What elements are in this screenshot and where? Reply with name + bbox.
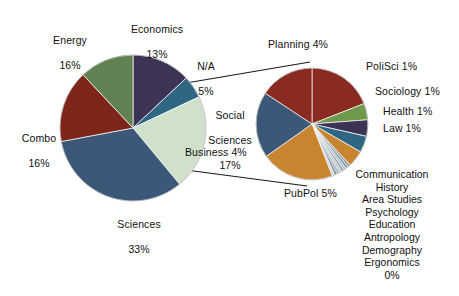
label-polisci: PoliSci 1% [366, 60, 417, 73]
label-planning: Planning 4% [268, 38, 328, 51]
label-na-text: N/A [197, 60, 215, 72]
label-social-sciences: Social Sciences 17% [190, 96, 258, 184]
label-economics-value: 13% [146, 48, 167, 60]
label-sciences-text: Sciences [117, 218, 160, 230]
pie-chart-figure: Economics 13% Energy 16% Combo 16% Scien… [0, 0, 459, 296]
label-combo-value: 16% [28, 157, 49, 169]
label-social-line1: Social [215, 109, 244, 121]
label-combo-text: Combo [22, 132, 56, 144]
label-energy-text: Energy [53, 34, 87, 46]
label-sciences-value: 33% [128, 243, 149, 255]
label-pubpol: PubPol 5% [284, 187, 337, 200]
label-energy: Energy 16% [27, 21, 101, 84]
label-social-line2: Sciences [208, 134, 251, 146]
label-energy-value: 16% [59, 59, 80, 71]
label-zero-percent-group: Communication History Area Studies Psych… [337, 168, 447, 281]
label-social-value: 17% [219, 159, 240, 171]
label-law: Law 1% [383, 122, 421, 135]
label-combo: Combo 16% [2, 119, 64, 182]
label-sciences: Sciences 33% [92, 205, 174, 268]
label-sociology: Sociology 1% [375, 85, 440, 98]
label-economics-text: Economics [131, 23, 183, 35]
detail-pie [256, 68, 368, 180]
label-health: Health 1% [383, 105, 432, 118]
label-business: Business 4% [185, 146, 247, 159]
label-na-value: 5% [198, 85, 213, 97]
